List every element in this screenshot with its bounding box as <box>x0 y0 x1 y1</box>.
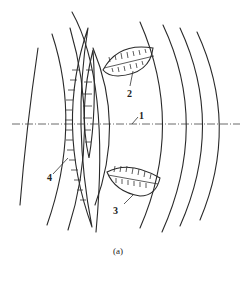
convex-front <box>93 48 110 205</box>
element-3 <box>107 166 160 204</box>
right-arc-1 <box>162 25 186 232</box>
label-2: 2 <box>127 88 132 99</box>
left-arc-outer <box>20 48 38 205</box>
right-arc-2 <box>180 28 203 226</box>
left-arc-2 <box>47 34 66 225</box>
label-1: 1 <box>139 110 144 121</box>
right-arc-3 <box>197 32 219 220</box>
leader-4 <box>53 158 68 174</box>
chamber-arc <box>140 22 163 228</box>
label-3: 3 <box>113 205 118 216</box>
element-2 <box>103 47 154 86</box>
diagram-canvas: 1 2 3 4 (a) <box>0 0 247 292</box>
figure-caption: (a) <box>113 246 123 256</box>
leader-1 <box>132 117 138 124</box>
label-4: 4 <box>47 172 52 183</box>
